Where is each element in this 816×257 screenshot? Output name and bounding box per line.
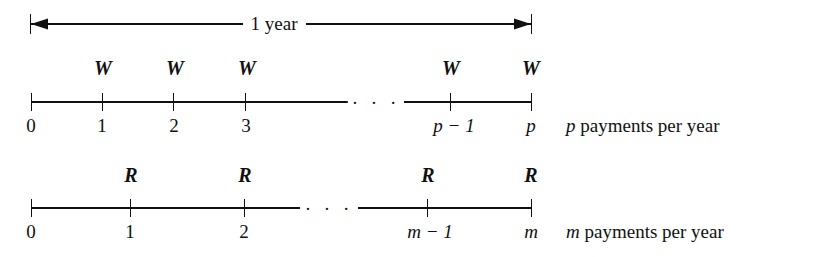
span-label: 1 year (246, 14, 303, 33)
bottom-payment-label-2: R (238, 165, 251, 185)
top-timeline-description: p payments per year (566, 116, 720, 135)
span-arrow-left (31, 19, 48, 30)
bottom-payment-label-m: R (524, 165, 537, 185)
top-description-rest: payments per year (576, 115, 720, 136)
bottom-tick-label-1: 1 (125, 222, 135, 241)
top-payment-label-3: W (238, 58, 256, 78)
top-payment-label-1: W (94, 58, 112, 78)
bottom-axis-ellipsis: · · · (301, 199, 357, 218)
bottom-description-rest: payments per year (580, 221, 724, 242)
bottom-tick-label-2: 2 (239, 222, 249, 241)
bottom-payment-label-1: R (124, 165, 137, 185)
top-axis-ellipsis: · · · (348, 93, 404, 112)
top-description-symbol: p (566, 115, 576, 136)
bottom-description-symbol: m (566, 221, 580, 242)
bottom-timeline-description: m payments per year (566, 222, 724, 241)
top-tick-label-0: 0 (26, 116, 36, 135)
top-tick-label-3: 3 (241, 116, 251, 135)
top-tick-label-1: 1 (97, 116, 107, 135)
bottom-tick-label-0: 0 (26, 222, 36, 241)
bottom-payment-label-m-minus-1: R (421, 165, 434, 185)
bottom-tick-label-m: m (524, 222, 538, 241)
span-arrow-right (514, 19, 531, 30)
top-tick-label-2: 2 (169, 116, 179, 135)
payment-timeline-figure: 1 year W W W W W · · · 0 1 2 3 p − 1 p p… (0, 0, 816, 257)
top-payment-label-2: W (166, 58, 184, 78)
top-payment-label-p: W (522, 58, 540, 78)
top-tick-label-p-minus-1: p − 1 (433, 116, 474, 135)
top-tick-label-p: p (526, 116, 536, 135)
bottom-tick-label-m-minus-1: m − 1 (407, 222, 453, 241)
top-payment-label-p-minus-1: W (442, 58, 460, 78)
